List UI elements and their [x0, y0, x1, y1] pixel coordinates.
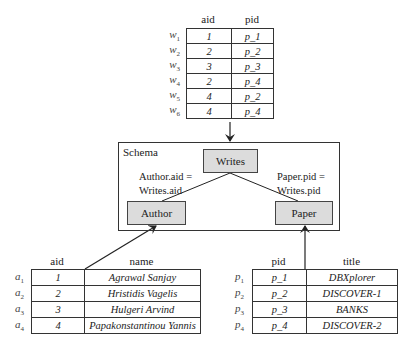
table-row: 3p_3 [187, 59, 274, 74]
paper-row-label: p2 [222, 286, 244, 301]
entity-writes: Writes [203, 149, 258, 173]
cell-aid: 3 [32, 302, 85, 318]
author-row-label: a4 [2, 318, 24, 333]
cell-name: Papakonstantinou Yannis [85, 318, 201, 334]
author-header-aid: aid [31, 255, 83, 267]
paper-join-condition: Paper.pid = Writes.pid [277, 170, 325, 198]
cell-aid: 2 [32, 286, 85, 302]
schema-title: Schema [123, 146, 158, 158]
cell-aid: 4 [187, 89, 232, 104]
table-row: 1Agrawal Sanjay [32, 270, 201, 286]
cell-title: BANKS [307, 302, 398, 318]
cell-pid: p_2 [253, 286, 307, 302]
entity-paper: Paper [275, 201, 333, 225]
cell-aid: 2 [187, 44, 232, 59]
paper-row-label: p4 [222, 318, 244, 333]
author-row-label: a1 [2, 270, 24, 285]
writes-row-label: w3 [158, 58, 180, 73]
writes-row-label: w4 [158, 73, 180, 88]
cell-aid: 4 [187, 104, 232, 119]
table-row: p_4DISCOVER-2 [253, 318, 398, 334]
cell-aid: 2 [187, 74, 232, 89]
cell-aid: 3 [187, 59, 232, 74]
cell-pid: p_2 [232, 89, 274, 104]
cell-title: DBXplorer [307, 270, 398, 286]
cell-pid: p_4 [232, 104, 274, 119]
table-row: 4p_4 [187, 104, 274, 119]
author-header-name: name [83, 255, 200, 267]
author-row-label: a3 [2, 302, 24, 317]
table-row: p_1DBXplorer [253, 270, 398, 286]
cell-pid: p_3 [253, 302, 307, 318]
writes-header-pid: pid [230, 13, 274, 25]
table-row: p_3BANKS [253, 302, 398, 318]
cell-pid: p_4 [232, 74, 274, 89]
paper-row-label: p1 [222, 270, 244, 285]
cell-aid: 1 [187, 29, 232, 44]
writes-row-label: w6 [158, 103, 180, 118]
writes-header-aid: aid [186, 13, 230, 25]
cell-aid: 4 [32, 318, 85, 334]
paper-table: p_1DBXplorer p_2DISCOVER-1 p_3BANKS p_4D… [252, 269, 398, 334]
writes-row-label: w5 [158, 88, 180, 103]
writes-row-label: w2 [158, 43, 180, 58]
table-row: 4p_2 [187, 89, 274, 104]
table-row: 2p_4 [187, 74, 274, 89]
table-row: 1p_1 [187, 29, 274, 44]
paper-header-title: title [305, 255, 398, 267]
table-row: 4Papakonstantinou Yannis [32, 318, 201, 334]
cell-pid: p_3 [232, 59, 274, 74]
writes-row-label: w1 [158, 28, 180, 43]
cell-pid: p_2 [232, 44, 274, 59]
writes-table: 1p_1 2p_2 3p_3 2p_4 4p_2 4p_4 [186, 28, 274, 119]
paper-header-pid: pid [252, 255, 305, 267]
table-row: p_2DISCOVER-1 [253, 286, 398, 302]
author-table: 1Agrawal Sanjay 2Hristidis Vagelis 3Hulg… [31, 269, 201, 334]
cell-pid: p_4 [253, 318, 307, 334]
cell-name: Hulgeri Arvind [85, 302, 201, 318]
author-join-condition: Author.aid = Writes.aid [139, 170, 192, 198]
entity-author: Author [127, 201, 186, 225]
cell-aid: 1 [32, 270, 85, 286]
cell-title: DISCOVER-2 [307, 318, 398, 334]
cell-pid: p_1 [232, 29, 274, 44]
cell-pid: p_1 [253, 270, 307, 286]
paper-row-label: p3 [222, 302, 244, 317]
table-row: 3Hulgeri Arvind [32, 302, 201, 318]
cell-name: Hristidis Vagelis [85, 286, 201, 302]
cell-title: DISCOVER-1 [307, 286, 398, 302]
table-row: 2p_2 [187, 44, 274, 59]
author-row-label: a2 [2, 286, 24, 301]
cell-name: Agrawal Sanjay [85, 270, 201, 286]
table-row: 2Hristidis Vagelis [32, 286, 201, 302]
